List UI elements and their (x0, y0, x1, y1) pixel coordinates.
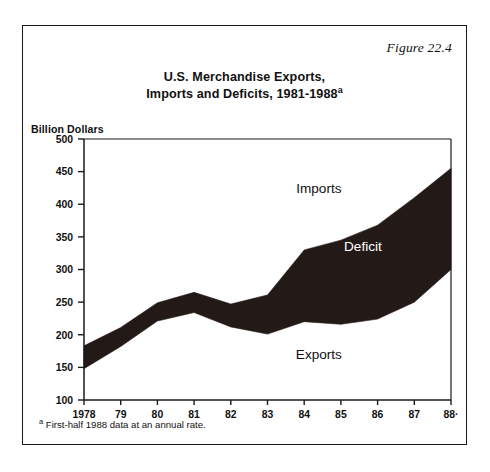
chart-footnote-text: First-half 1988 data at an annual rate. (43, 419, 206, 430)
y-axis-tick-label: 250 (56, 297, 74, 308)
y-axis-tick-label: 450 (56, 166, 74, 177)
x-axis-tick-label: 88· (443, 409, 458, 420)
x-axis-tick-label: 86 (372, 409, 384, 420)
y-axis-tick-label: 350 (56, 232, 74, 243)
figure-container: Figure 22.4 U.S. Merchandise Exports, Im… (0, 0, 490, 472)
chart-title-line-2: Imports and Deficits, 1981-1988a (23, 86, 466, 103)
y-axis-tick-label: 400 (56, 199, 74, 210)
y-axis-tick-label: 200 (56, 330, 74, 341)
deficit-band-area (84, 168, 451, 368)
series-annotation-group: ImportsDeficitExports (296, 181, 382, 362)
chart-title-line-2-text: Imports and Deficits, 1981-1988 (146, 87, 337, 101)
x-axis-tick-label: 83 (262, 409, 274, 420)
series-label-imports: Imports (296, 181, 342, 196)
chart-title-line-1: U.S. Merchandise Exports, (23, 69, 466, 86)
series-label-exports: Exports (296, 347, 342, 362)
y-axis-tick-label: 150 (56, 362, 74, 373)
figure-number-label: Figure 22.4 (387, 40, 452, 56)
chart-title: U.S. Merchandise Exports, Imports and De… (23, 69, 466, 103)
figure-frame: Figure 22.4 U.S. Merchandise Exports, Im… (22, 25, 467, 445)
x-axis-tick-label: 87 (409, 409, 421, 420)
chart-title-footnote-marker: a (338, 85, 343, 95)
x-axis-tick-label: 84 (298, 409, 310, 420)
y-axis-tick-label: 500 (56, 134, 74, 145)
chart-footnote: a First-half 1988 data at an annual rate… (39, 419, 206, 430)
deficit-band-group (84, 168, 451, 368)
y-axis-tick-label: 100 (56, 395, 74, 406)
series-label-deficit: Deficit (344, 239, 382, 254)
y-axis-tick-group: 100150200250300350400450500 (56, 134, 84, 406)
x-axis-tick-label: 82 (225, 409, 237, 420)
y-axis-tick-label: 300 (56, 264, 74, 275)
x-axis-tick-label: 85 (335, 409, 347, 420)
axis-lines-group (84, 139, 451, 400)
y-axis-caption: Billion Dollars (31, 123, 104, 135)
x-axis-tick-group: 197879808182838485868788· (72, 400, 458, 420)
